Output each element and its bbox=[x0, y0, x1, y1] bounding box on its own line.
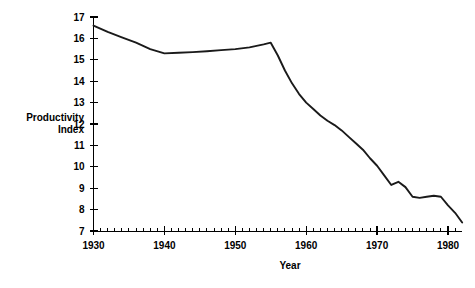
y-axis-title-line1: Productivity bbox=[26, 112, 84, 123]
x-axis-minor-ticks bbox=[94, 228, 456, 231]
y-tick-label: 15 bbox=[73, 54, 85, 65]
x-tick-label: 1980 bbox=[437, 240, 460, 251]
chart-container: 7891011121314151617 19301940195019601970… bbox=[0, 0, 475, 288]
x-tick-label: 1960 bbox=[295, 240, 318, 251]
y-tick-label: 17 bbox=[73, 12, 85, 23]
line-chart: 7891011121314151617 19301940195019601970… bbox=[0, 0, 475, 288]
x-tick-label: 1970 bbox=[366, 240, 389, 251]
y-tick-label: 14 bbox=[73, 76, 85, 87]
y-axis-title-line2: Index bbox=[58, 124, 85, 135]
x-tick-label: 1950 bbox=[224, 240, 247, 251]
y-tick-label: 8 bbox=[79, 204, 85, 215]
y-tick-label: 13 bbox=[73, 97, 85, 108]
y-tick-label: 16 bbox=[73, 33, 85, 44]
y-tick-label: 9 bbox=[79, 183, 85, 194]
x-tick-label: 1930 bbox=[82, 240, 105, 251]
y-tick-label: 7 bbox=[79, 226, 85, 237]
x-axis-group: 193019401950196019701980 bbox=[82, 226, 462, 251]
x-tick-label: 1940 bbox=[153, 240, 176, 251]
y-tick-label: 11 bbox=[74, 140, 85, 151]
x-axis-tick-labels: 193019401950196019701980 bbox=[82, 240, 459, 251]
y-tick-label: 10 bbox=[73, 161, 85, 172]
x-axis-title: Year bbox=[279, 260, 300, 271]
data-series-line bbox=[94, 26, 463, 223]
